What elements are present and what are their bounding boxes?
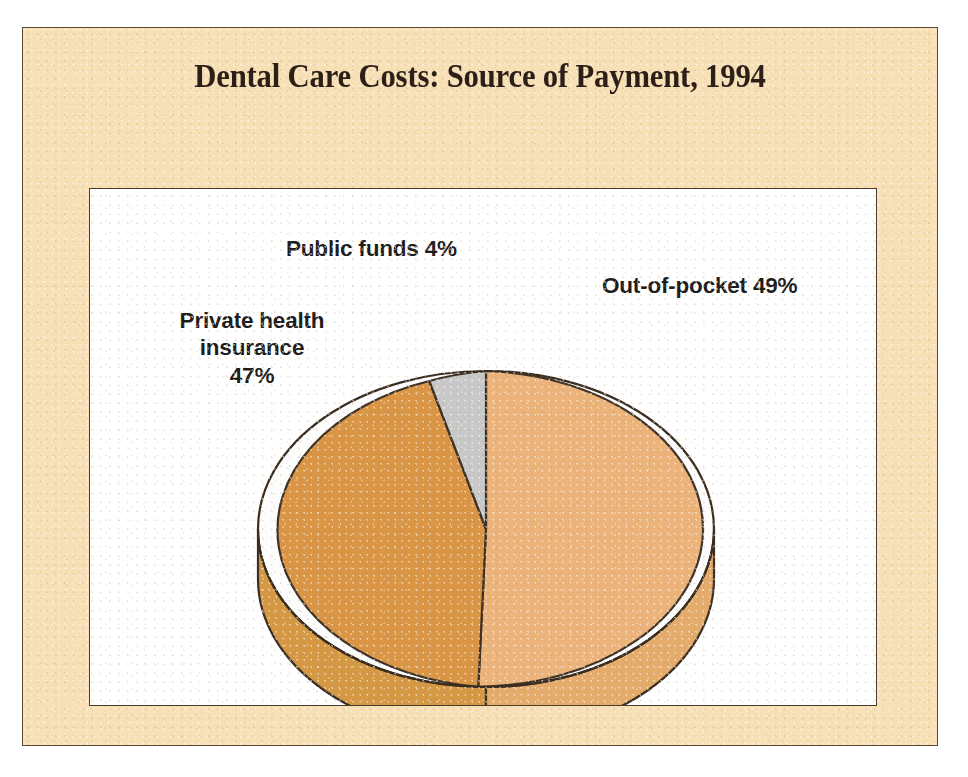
- pie-label-private-health-insurance: Private health insurance 47%: [116, 307, 388, 389]
- pie-label-out-of-pocket: Out-of-pocket 49%: [602, 272, 797, 299]
- pie-chart-graphic: [90, 189, 877, 706]
- plot-panel: Public funds 4% Out-of-pocket 49% Privat…: [89, 188, 877, 706]
- page-title: Dental Care Costs: Source of Payment, 19…: [55, 58, 905, 95]
- pie-label-public-funds: Public funds 4%: [286, 235, 457, 262]
- pie-top-grain: [258, 371, 714, 687]
- figure-frame: Dental Care Costs: Source of Payment, 19…: [22, 27, 938, 746]
